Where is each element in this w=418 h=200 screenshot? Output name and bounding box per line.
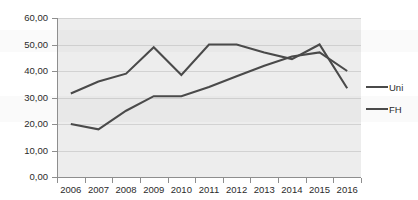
y-tick-label: 50,00 <box>0 40 48 50</box>
y-tick-label: 30,00 <box>0 93 48 103</box>
y-tick-mark <box>52 151 58 152</box>
legend-label-fh: FH <box>389 104 402 115</box>
x-tick-mark <box>361 178 362 183</box>
gridline <box>57 124 361 125</box>
x-tick-mark <box>278 178 279 183</box>
x-tick-mark <box>85 178 86 183</box>
gridline <box>57 18 361 19</box>
y-tick-mark <box>52 45 58 46</box>
gridline <box>57 98 361 99</box>
y-tick-label: 0,00 <box>0 172 48 182</box>
legend-item-uni: Uni <box>366 76 418 98</box>
y-tick-label: 10,00 <box>0 146 48 156</box>
gridline <box>57 71 361 72</box>
x-tick-mark <box>250 178 251 183</box>
x-tick-mark <box>195 178 196 183</box>
y-tick-label: 60,00 <box>0 13 48 23</box>
y-tick-mark <box>52 71 58 72</box>
plot-area <box>57 18 361 177</box>
y-tick-label: 40,00 <box>0 66 48 76</box>
y-tick-label: 20,00 <box>0 119 48 129</box>
x-tick-mark <box>223 178 224 183</box>
x-tick-label: 2016 <box>331 185 363 195</box>
legend-item-fh: FH <box>366 98 418 120</box>
x-tick-mark <box>168 178 169 183</box>
legend-swatch-uni <box>366 86 388 88</box>
gridline <box>57 45 361 46</box>
legend: Uni FH <box>366 76 418 120</box>
x-axis-line <box>57 177 361 178</box>
gridline <box>57 151 361 152</box>
y-tick-mark <box>52 98 58 99</box>
line-chart: 0,0010,0020,0030,0040,0050,0060,00 20062… <box>0 0 418 200</box>
x-tick-mark <box>140 178 141 183</box>
x-tick-mark <box>306 178 307 183</box>
legend-label-uni: Uni <box>389 82 403 93</box>
x-tick-mark <box>112 178 113 183</box>
y-tick-mark <box>52 18 58 19</box>
x-tick-mark <box>333 178 334 183</box>
y-tick-mark <box>52 124 58 125</box>
legend-swatch-fh <box>366 108 388 110</box>
x-tick-mark <box>57 178 58 183</box>
